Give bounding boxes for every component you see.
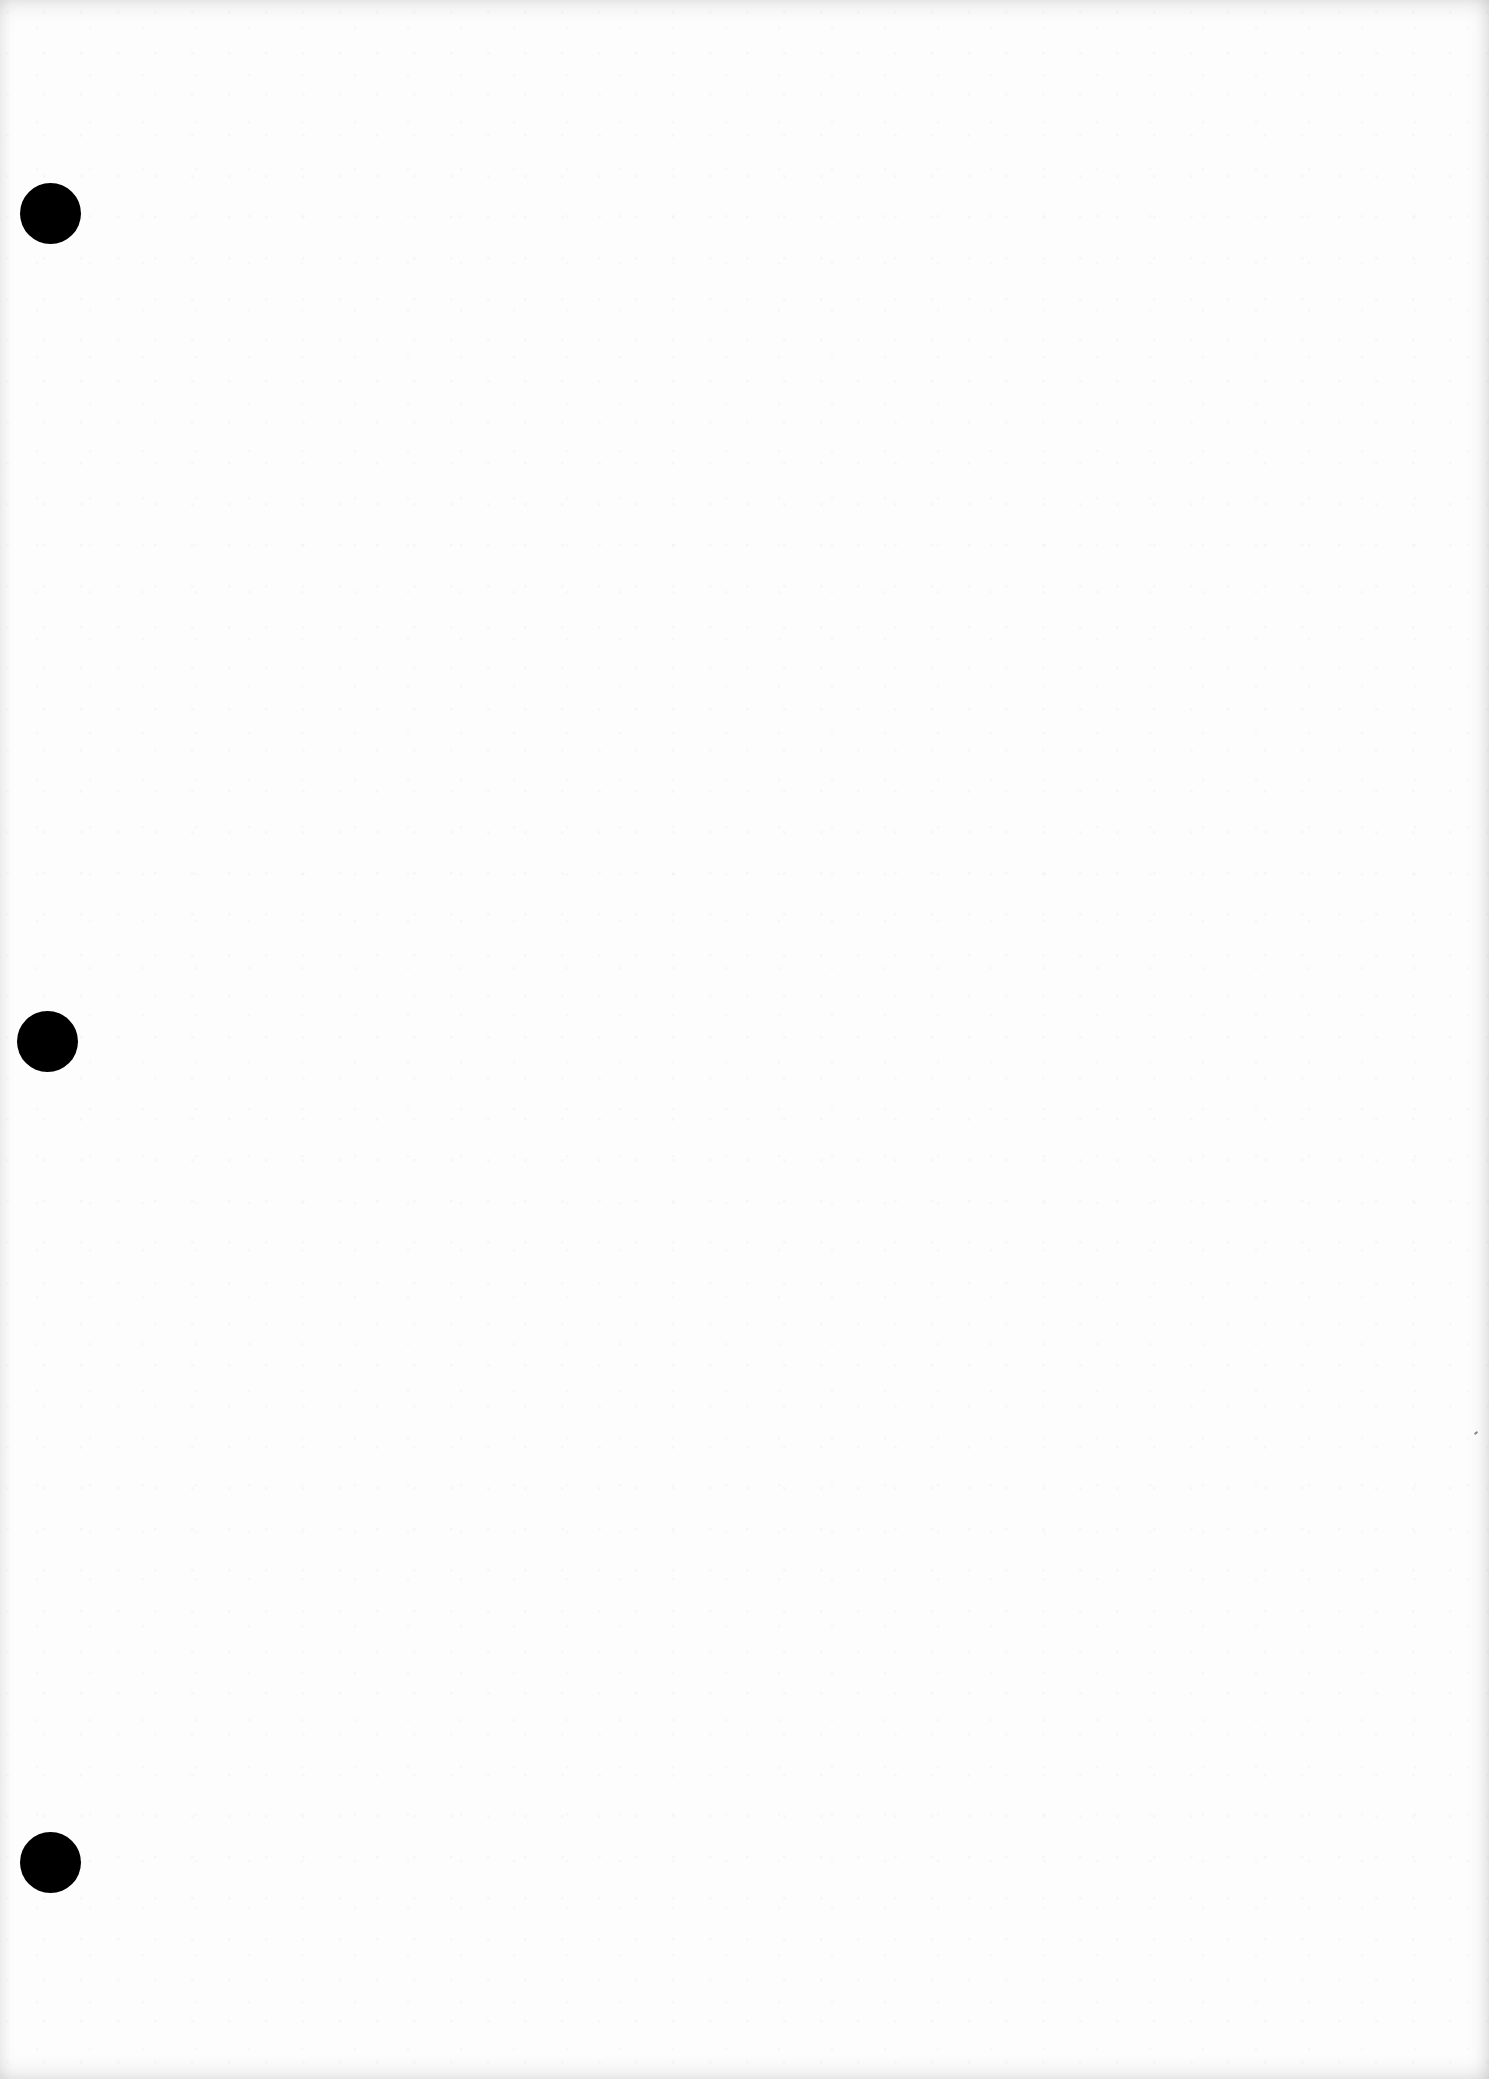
scan-speck [1474,1431,1478,1435]
punch-hole-bottom [20,1832,81,1893]
punch-hole-top [20,183,81,244]
punch-hole-middle [17,1011,78,1072]
blank-page [0,0,1489,2079]
paper-texture [0,0,1489,2079]
